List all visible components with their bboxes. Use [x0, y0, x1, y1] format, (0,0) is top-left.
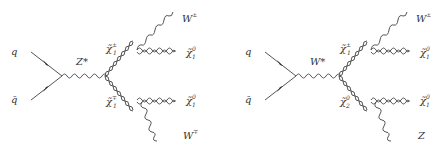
lower-boson-label: Z: [417, 130, 426, 141]
lower-boson-label: W∓: [183, 128, 198, 141]
arrow-icon: [43, 60, 49, 66]
quark-label: q: [11, 46, 17, 57]
mediator-propagator: [62, 74, 107, 78]
antiquark-label: q̄: [245, 94, 251, 105]
lower-lsp-line2: [371, 100, 409, 104]
lower-chargino-label: χ̃∓1: [105, 94, 117, 109]
upper-chargino-label: χ̃±1: [339, 41, 351, 56]
diagram-right: q q̄ W* χ̃±1 χ̃02 W± χ̃01 χ̃01 Z: [245, 11, 431, 141]
neutralino2-label: χ̃02: [339, 94, 350, 109]
diagram-left: q q̄ Z* χ̃±1 χ̃∓1 W± χ̃01 χ̃01 W∓: [11, 11, 198, 141]
upper-boson-line: [371, 12, 407, 50]
quark-label: q: [245, 46, 251, 57]
lower-lsp-label: χ̃01: [419, 93, 430, 108]
upper-lsp-line2: [137, 50, 175, 54]
upper-boson-label: W±: [182, 11, 197, 24]
upper-lsp-line2: [371, 50, 409, 54]
arrow-icon: [43, 86, 49, 92]
upper-lsp-label: χ̃01: [419, 45, 430, 60]
lower-boson-line: [141, 102, 157, 141]
antiquark-label: q̄: [11, 94, 17, 105]
upper-lsp-label: χ̃01: [185, 45, 196, 60]
lower-lsp-line2: [137, 100, 175, 104]
lower-lsp-label: χ̃01: [185, 93, 196, 108]
upper-chargino-label: χ̃±1: [105, 41, 117, 56]
mediator-label: Z*: [75, 56, 88, 67]
lower-boson-line: [375, 102, 391, 141]
feynman-diagrams: q q̄ Z* χ̃±1 χ̃∓1 W± χ̃01 χ̃01 W∓: [0, 0, 445, 154]
mediator-propagator: [296, 74, 341, 78]
mediator-label: W*: [310, 56, 325, 67]
upper-boson-label: W±: [416, 11, 431, 24]
upper-boson-line: [137, 12, 173, 50]
